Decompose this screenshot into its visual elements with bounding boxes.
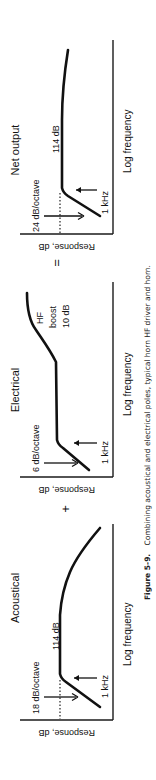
equals-operator: = <box>49 259 64 267</box>
panel-acoustical: Acoustical 18 dB/octave 114 dB 1 kHz Log… <box>9 524 133 738</box>
panel-title: Net output <box>9 125 21 176</box>
panel-title: Acoustical <box>9 573 21 623</box>
plus-operator: + <box>58 505 73 513</box>
x-axis-label: Log frequency <box>122 110 133 173</box>
caption-text: Combining acoustical and electrical pole… <box>143 265 152 545</box>
hf-boost-label-line3: 10 dB <box>61 304 71 328</box>
panel-title: Electrical <box>9 368 21 413</box>
level-label: 114 dB <box>51 622 61 650</box>
corner-label: 1 kHz <box>100 190 110 214</box>
panel-electrical: Electrical 6 dB/octave 1 kHz HF boost 10… <box>9 282 133 495</box>
level-label: 114 dB <box>51 125 61 153</box>
y-axis-label: Response, dB <box>38 728 95 738</box>
corner-arrow <box>74 440 97 446</box>
slope-arrow <box>44 694 78 701</box>
slope-arrow <box>44 213 84 220</box>
panel-net-output: Net output 24 dB/octave 114 dB 1 kHz Log… <box>9 40 133 252</box>
x-axis-label: Log frequency <box>122 603 133 666</box>
slope-label: 18 dB/octave <box>31 661 41 714</box>
hf-boost-label-line2: boost <box>48 305 58 328</box>
hf-boost-label-line1: HF <box>35 312 45 324</box>
slope-arrow <box>44 460 78 467</box>
y-axis-label-rendered: Response, dB <box>38 242 95 252</box>
slope-label: 24 dB/octave <box>31 179 41 232</box>
corner-arrow <box>74 675 97 681</box>
y-axis-label: Response, dB <box>38 485 95 495</box>
corner-label: 1 kHz <box>100 674 110 698</box>
response-curve <box>60 528 100 707</box>
figure-caption: Figure 5-9. Combining acoustical and ele… <box>143 265 152 600</box>
slope-label: 6 dB/octave <box>31 424 41 472</box>
x-axis-label: Log frequency <box>122 353 133 416</box>
caption: Figure 5-9. Combining acoustical and ele… <box>143 265 152 600</box>
figure-canvas: Net output 24 dB/octave 114 dB 1 kHz Log… <box>0 0 156 780</box>
corner-label: 1 kHz <box>100 440 110 464</box>
caption-label: Figure 5-9. <box>143 554 152 600</box>
corner-arrow <box>76 187 97 193</box>
